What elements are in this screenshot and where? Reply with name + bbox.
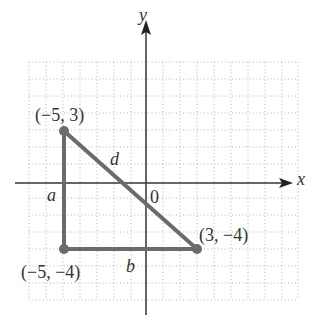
point-label: (−5, −4): [21, 263, 80, 281]
side-d: [64, 131, 197, 249]
side-a-label: a: [47, 186, 56, 204]
triangle: [64, 131, 197, 249]
y-axis: [141, 20, 151, 315]
x-axis-label: x: [297, 170, 305, 188]
point-marker: [59, 244, 69, 254]
origin-label: 0: [150, 188, 159, 206]
point-marker: [59, 126, 69, 136]
point-marker: [192, 244, 202, 254]
side-b-label: b: [126, 257, 135, 275]
side-d-label: d: [110, 150, 119, 168]
y-axis-label: y: [139, 6, 147, 24]
point-label: (−5, 3): [35, 106, 84, 124]
point-label: (3, −4): [199, 226, 248, 244]
